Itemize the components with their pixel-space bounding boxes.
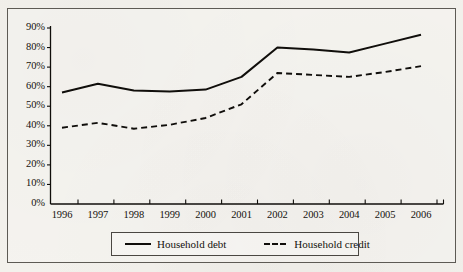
y-axis-label: 0% (12, 197, 45, 208)
legend-label-household-debt: Household debt (157, 238, 226, 250)
y-axis-label: 40% (12, 119, 45, 130)
chart-legend: Household debt Household credit (111, 232, 359, 256)
y-axis-label: 30% (12, 138, 45, 149)
legend-label-household-credit: Household credit (294, 238, 369, 250)
y-axis-label: 90% (12, 21, 45, 32)
y-axis-label: 80% (12, 41, 45, 52)
x-axis-label: 2006 (400, 209, 442, 220)
series-line-household-credit (62, 66, 421, 129)
chart-series (62, 35, 421, 129)
y-axis-label: 50% (12, 99, 45, 110)
y-axis-label: 60% (12, 80, 45, 91)
y-axis-label: 70% (12, 60, 45, 71)
series-line-household-debt (62, 35, 421, 93)
y-axis-label: 10% (12, 177, 45, 188)
figure-page: 0%10%20%30%40%50%60%70%80%90% 1996199719… (0, 0, 463, 272)
legend-dashed-line-icon (262, 239, 288, 249)
legend-solid-line-icon (125, 239, 151, 249)
y-axis-label: 20% (12, 158, 45, 169)
legend-entry-household-debt: Household debt (125, 233, 226, 255)
legend-entry-household-credit: Household credit (262, 233, 369, 255)
chart-axes (47, 26, 444, 204)
